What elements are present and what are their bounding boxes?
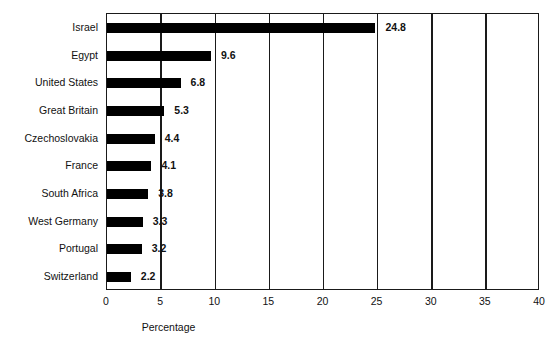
value-label: 4.1: [161, 160, 176, 171]
category-label: Portugal: [0, 243, 98, 254]
value-label: 2.2: [141, 271, 156, 282]
tick-label-35: 35: [479, 296, 491, 307]
tick-label-30: 30: [425, 296, 437, 307]
category-label: West Germany: [0, 216, 98, 227]
bar: [107, 23, 375, 33]
bar: [107, 217, 143, 227]
bar: [107, 134, 155, 144]
value-label: 3.2: [152, 243, 167, 254]
bar-row: [107, 69, 538, 97]
tick-label-0: 0: [103, 296, 109, 307]
plot-area: [106, 13, 539, 290]
bar: [107, 272, 131, 282]
tick-label-25: 25: [371, 296, 383, 307]
value-label: 6.8: [191, 77, 206, 88]
bar-row: [107, 14, 538, 42]
tick-label-20: 20: [317, 296, 329, 307]
bar: [107, 78, 181, 88]
x-axis-title: Percentage: [0, 321, 559, 333]
tick-label-10: 10: [208, 296, 220, 307]
category-label: France: [0, 160, 98, 171]
bar: [107, 161, 151, 171]
value-label: 3.8: [158, 188, 173, 199]
category-label: Great Britain: [0, 105, 98, 116]
category-label: Czechoslovakia: [0, 132, 98, 143]
category-label: Egypt: [0, 49, 98, 60]
bar: [107, 244, 142, 254]
tick-label-40: 40: [533, 296, 545, 307]
category-label: Switzerland: [0, 271, 98, 282]
category-label: South Africa: [0, 188, 98, 199]
bar-row: [107, 236, 538, 264]
bar: [107, 51, 211, 61]
category-label: Israel: [0, 22, 98, 33]
value-label: 4.4: [165, 132, 180, 143]
bar: [107, 106, 164, 116]
tick-label-15: 15: [263, 296, 275, 307]
tick-label-5: 5: [157, 296, 163, 307]
value-label: 9.6: [221, 49, 236, 60]
value-label: 5.3: [174, 105, 189, 116]
category-label: United States: [0, 77, 98, 88]
bar-row: [107, 263, 538, 291]
bar-row: [107, 42, 538, 70]
value-label: 24.8: [385, 22, 405, 33]
bar-row: [107, 208, 538, 236]
value-label: 3.3: [153, 216, 168, 227]
bar: [107, 189, 148, 199]
x-axis-title-text: Percentage: [142, 321, 196, 333]
bar-row: [107, 97, 538, 125]
horizontal-bar-chart: IsraelEgyptUnited StatesGreat BritainCze…: [0, 0, 559, 349]
